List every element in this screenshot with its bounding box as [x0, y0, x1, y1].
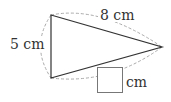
left-side-label: 5 cm	[10, 37, 44, 51]
top-side-label: 8 cm	[98, 8, 136, 22]
answer-box[interactable]	[97, 67, 123, 93]
answer-unit-label: cm	[126, 75, 147, 89]
